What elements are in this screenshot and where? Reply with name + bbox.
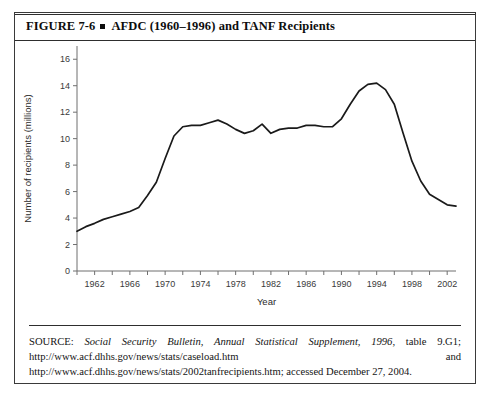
source-conjunction: and [446,351,461,362]
recipients-line-series [77,83,456,231]
source-note: SOURCE: Social Security Bulletin, Annual… [15,325,475,379]
svg-text:10: 10 [60,134,70,144]
y-axis: 0246810121416 [60,46,77,276]
source-rest-two: http://www.acf.dhhs.gov/news/stats/2002t… [29,366,412,377]
svg-text:6: 6 [65,187,70,197]
source-label: SOURCE: [29,336,74,347]
svg-text:1998: 1998 [402,279,422,289]
source-note-text: SOURCE: Social Security Bulletin, Annual… [29,325,461,379]
svg-text:4: 4 [65,213,70,223]
figure-container: FIGURE 7-6AFDC (1960–1996) and TANF Reci… [14,12,476,384]
figure-title-bar: FIGURE 7-6AFDC (1960–1996) and TANF Reci… [15,13,475,41]
svg-text:1962: 1962 [85,279,105,289]
svg-text:14: 14 [60,81,70,91]
svg-text:1994: 1994 [367,279,387,289]
svg-text:2002: 2002 [437,279,457,289]
line-chart-svg: 0246810121416 19621966197019741978198219… [15,41,475,323]
figure-title-text: AFDC (1960–1996) and TANF Recipients [111,19,335,33]
svg-text:1978: 1978 [226,279,246,289]
x-axis: 1962196619701974197819821986199019941998… [77,271,457,289]
svg-text:1970: 1970 [155,279,175,289]
y-axis-title: Number of recipients (millions) [22,94,33,222]
svg-text:12: 12 [60,107,70,117]
svg-text:0: 0 [65,266,70,276]
square-bullet-icon [100,24,105,29]
figure-number: FIGURE 7-6 [26,19,95,33]
svg-text:16: 16 [60,54,70,64]
svg-text:1986: 1986 [296,279,316,289]
svg-text:1982: 1982 [261,279,281,289]
svg-text:1990: 1990 [331,279,351,289]
svg-text:1974: 1974 [190,279,210,289]
chart-plot-area: 0246810121416 19621966197019741978198219… [15,41,475,323]
page-title: FIGURE 7-6AFDC (1960–1996) and TANF Reci… [15,19,335,34]
svg-text:2: 2 [65,240,70,250]
svg-text:1966: 1966 [120,279,140,289]
svg-text:8: 8 [65,160,70,170]
x-axis-title: Year [257,296,276,307]
source-citation-italic: Social Security Bulletin, Annual Statist… [85,336,393,347]
